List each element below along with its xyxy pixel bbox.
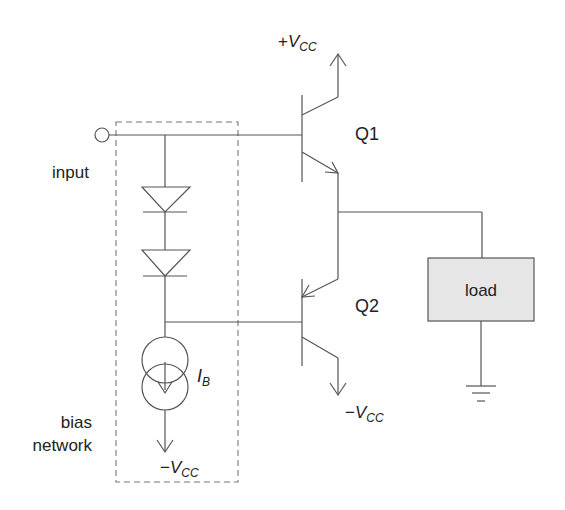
load-label: load: [465, 281, 497, 300]
input-terminal: [95, 128, 109, 142]
transistor-q1: [302, 95, 338, 182]
pos-vcc-label: +VCC: [278, 32, 317, 54]
bias-label-line1: bias: [61, 413, 92, 432]
circuit-diagram: input bias network Q1 Q2 load +VCC −VCC …: [0, 0, 565, 510]
transistor-q2: [302, 279, 338, 366]
diode-2: [142, 250, 190, 276]
q2-neg-vcc-label: −VCC: [345, 403, 384, 425]
bias-network-box: [116, 122, 238, 482]
diode-1: [142, 187, 190, 212]
current-source-icon: [142, 337, 188, 410]
q2-label: Q2: [355, 296, 379, 316]
q1-label: Q1: [355, 124, 379, 144]
bias-label-line2: network: [32, 436, 92, 455]
ground-icon: [466, 386, 496, 401]
ib-label: IB: [197, 366, 210, 389]
input-label: input: [52, 163, 89, 182]
bias-neg-vcc-label: −VCC: [160, 458, 199, 480]
